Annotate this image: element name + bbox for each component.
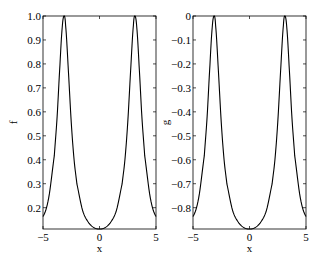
chart-canvas: −5050.20.30.40.50.60.70.80.91.0xf −505−0… <box>0 0 320 258</box>
y-tick-label: −0.6 <box>171 154 191 166</box>
axes-frame <box>43 16 156 229</box>
panel-f: −5050.20.30.40.50.60.70.80.91.0xf <box>7 10 159 254</box>
figure: −5050.20.30.40.50.60.70.80.91.0xf −505−0… <box>0 0 320 258</box>
x-tick-label: −5 <box>37 231 49 243</box>
y-tick-label: 0.4 <box>27 154 41 166</box>
y-tick-label: 1.0 <box>27 10 41 22</box>
y-tick-label: 0.8 <box>27 58 41 70</box>
y-tick-label: −0.5 <box>171 130 191 142</box>
axes-frame <box>193 16 306 229</box>
x-tick-label: −5 <box>187 231 199 243</box>
y-axis-label: f <box>7 120 19 124</box>
y-tick-label: 0.5 <box>27 130 41 142</box>
x-axis-label: x <box>97 242 103 254</box>
x-tick-label: 5 <box>303 231 309 243</box>
y-tick-label: 0.6 <box>27 106 41 118</box>
y-tick-label: −0.2 <box>171 58 191 70</box>
series-line-f <box>43 16 156 229</box>
y-tick-label: 0.3 <box>27 178 41 190</box>
y-tick-label: 0.7 <box>27 82 41 94</box>
y-tick-label: −0.8 <box>171 202 191 214</box>
x-axis-label: x <box>247 242 253 254</box>
panel-g: −505−0.8−0.7−0.6−0.5−0.4−0.3−0.2−0.10xg <box>159 10 309 254</box>
series-line-g <box>193 16 306 229</box>
y-tick-label: −0.3 <box>171 82 191 94</box>
y-tick-label: 0.2 <box>27 202 41 214</box>
y-tick-label: 0 <box>186 10 192 22</box>
x-tick-label: 5 <box>153 231 159 243</box>
y-axis-label: g <box>159 119 171 125</box>
y-tick-label: −0.7 <box>171 178 191 190</box>
y-tick-label: 0.9 <box>27 34 41 46</box>
y-tick-label: −0.1 <box>171 34 191 46</box>
y-tick-label: −0.4 <box>171 106 191 118</box>
